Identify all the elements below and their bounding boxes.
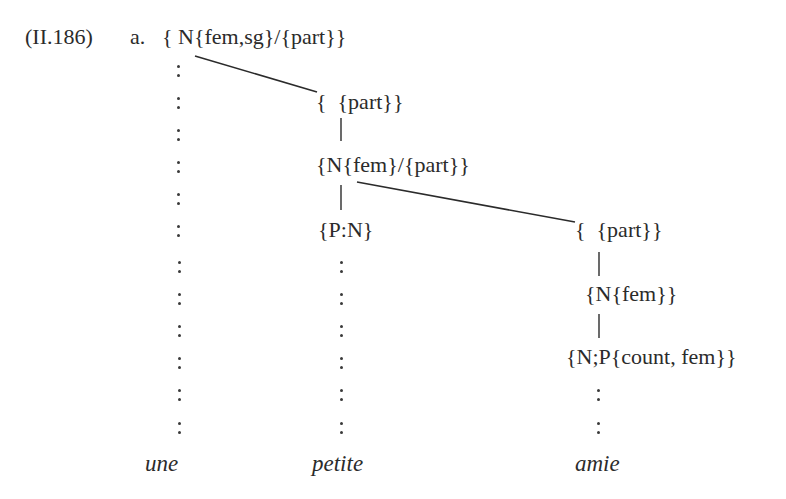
edge-col2-mid-to-col3-top <box>357 182 575 222</box>
colon-mark <box>340 261 344 275</box>
node-col3-mid: {N{fem}} <box>585 282 677 306</box>
colon-mark <box>340 325 344 339</box>
node-col2-low: {P:N} <box>318 218 373 242</box>
node-col2-mid: {N{fem}/{part}} <box>316 153 470 177</box>
colon-mark <box>177 129 181 143</box>
word-petite: petite <box>312 452 363 476</box>
colon-mark <box>340 357 344 371</box>
edge-root-to-col2-top <box>195 56 317 92</box>
colon-mark <box>178 389 182 403</box>
colon-mark <box>177 225 181 239</box>
colon-mark <box>340 293 344 307</box>
node-col3-low: {N;P{count, fem}} <box>566 345 737 369</box>
colon-mark <box>597 389 601 403</box>
node-root: { N{fem,sg}/{part}} <box>162 25 346 49</box>
word-une: une <box>145 452 178 476</box>
colon-mark <box>178 325 182 339</box>
tree-edges <box>0 0 786 499</box>
dependency-diagram: (II.186) a. { N{fem,sg}/{part}} { {part}… <box>0 0 786 499</box>
colon-mark <box>177 161 181 175</box>
colon-mark <box>340 422 344 436</box>
colon-mark <box>178 357 182 371</box>
colon-mark <box>340 389 344 403</box>
colon-mark <box>178 261 182 275</box>
colon-mark <box>597 422 601 436</box>
colon-mark <box>177 65 181 79</box>
node-col2-top: { {part}} <box>316 90 403 114</box>
word-amie: amie <box>575 452 620 476</box>
colon-mark <box>177 97 181 111</box>
colon-mark <box>178 293 182 307</box>
colon-mark <box>177 193 181 207</box>
example-sublabel: a. <box>130 25 145 49</box>
colon-mark <box>178 422 182 436</box>
node-col3-top: { {part}} <box>575 218 662 242</box>
example-number: (II.186) <box>25 25 93 49</box>
